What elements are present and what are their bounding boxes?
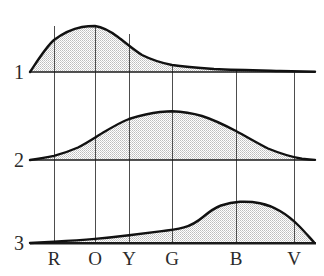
y-axis-label-3: 3: [2, 233, 24, 253]
y-axis-label-1: 1: [2, 62, 24, 82]
x-axis-label-B: B: [223, 249, 249, 268]
x-axis-label-O: O: [82, 249, 108, 268]
spectral-response-figure: 1 2 3 R O Y G B V: [0, 0, 324, 276]
x-axis-label-R: R: [41, 249, 67, 268]
x-axis-label-G: G: [159, 249, 185, 268]
y-axis-label-2: 2: [2, 150, 24, 170]
plot-area: [0, 0, 324, 276]
x-axis-label-V: V: [281, 249, 307, 268]
x-axis-label-Y: Y: [116, 249, 142, 268]
